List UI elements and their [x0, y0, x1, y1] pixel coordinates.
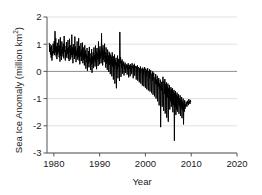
x-axis-label: Year [47, 176, 237, 187]
y-axis-label-text: Sea Ice Anomaly (million km [13, 34, 24, 153]
x-tick-label: 2010 [181, 158, 202, 169]
plot-canvas: 210-1-2-319801990200020102020 [0, 0, 262, 195]
y-tick-label: 1 [36, 39, 41, 50]
y-tick-label: 2 [36, 11, 41, 22]
x-tick-label: 2020 [226, 158, 247, 169]
y-tick-label: 0 [36, 66, 41, 77]
y-tick-label: -2 [33, 120, 41, 131]
y-axis-label-paren: ) [13, 27, 24, 30]
sea-ice-anomaly-chart: 210-1-2-319801990200020102020 Sea Ice An… [0, 0, 262, 195]
x-tick-label: 2000 [135, 158, 156, 169]
x-tick-label: 1990 [89, 158, 110, 169]
y-tick-label: -3 [33, 147, 41, 158]
x-tick-label: 1980 [43, 158, 64, 169]
y-axis-label: Sea Ice Anomaly (million km2) [12, 20, 24, 160]
y-axis-label-superscript: 2 [12, 30, 19, 34]
y-tick-label: -1 [33, 93, 41, 104]
